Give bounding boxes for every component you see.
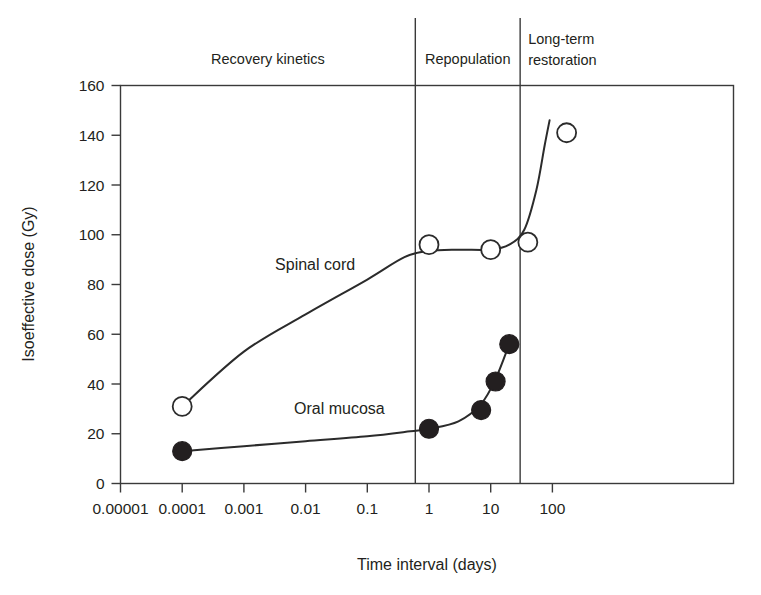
y-tick-label-3: 60 [87, 326, 105, 343]
series-label-oral-mucosa: Oral mucosa [294, 400, 385, 417]
x-tick-label-1: 0.0001 [158, 500, 205, 517]
y-tick-label-4: 80 [87, 276, 105, 293]
data-point-oral-mucosa-3 [486, 372, 505, 391]
data-point-spinal-cord-1 [420, 235, 439, 254]
zone-label-repopulation: Repopulation [425, 51, 510, 67]
zone-label-recovery-kinetics: Recovery kinetics [211, 51, 325, 67]
data-point-spinal-cord-2 [481, 240, 500, 259]
series-label-spinal-cord: Spinal cord [275, 256, 355, 273]
y-axis-title: Isoeffective dose (Gy) [20, 206, 37, 361]
y-tick-label-5: 100 [79, 226, 105, 243]
data-point-oral-mucosa-0 [173, 442, 192, 461]
data-point-oral-mucosa-1 [420, 419, 439, 438]
data-point-oral-mucosa-2 [472, 401, 491, 420]
y-tick-label-6: 120 [79, 177, 105, 194]
y-tick-label-7: 140 [79, 127, 105, 144]
x-tick-label-3: 0.01 [291, 500, 321, 517]
y-tick-label-2: 40 [87, 376, 105, 393]
zone-label-long-term-restoration: restoration [528, 52, 597, 68]
data-point-spinal-cord-4 [557, 123, 576, 142]
y-tick-label-8: 160 [79, 77, 105, 94]
x-axis-title: Time interval (days) [357, 556, 497, 573]
x-tick-label-7: 100 [539, 500, 565, 517]
isoeffective-dose-vs-time-chart: Recovery kineticsRepopulationLong-termre… [0, 0, 761, 595]
x-tick-label-2: 0.001 [225, 500, 264, 517]
y-tick-label-0: 0 [96, 475, 105, 492]
chart-figure: Recovery kineticsRepopulationLong-termre… [0, 0, 761, 595]
x-tick-label-5: 1 [425, 500, 434, 517]
data-point-spinal-cord-0 [173, 397, 192, 416]
x-tick-label-4: 0.1 [357, 500, 379, 517]
zone-label-long-term-restoration: Long-term [528, 31, 594, 47]
data-point-spinal-cord-3 [518, 233, 537, 252]
data-point-oral-mucosa-4 [500, 335, 519, 354]
x-tick-label-6: 10 [482, 500, 500, 517]
y-tick-label-1: 20 [87, 425, 105, 442]
x-tick-label-0: 0.00001 [92, 500, 148, 517]
